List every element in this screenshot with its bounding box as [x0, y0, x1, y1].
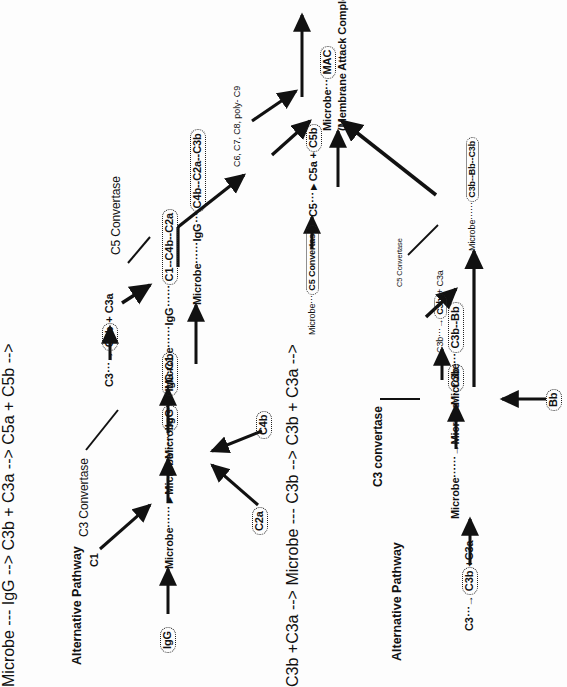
node-c3-to-c3b: C3⋯→C3b+ C3a [102, 293, 118, 387]
chip-igg: IgG [160, 627, 176, 653]
label-c6-c9: C6, C7, C8, poly- C9 [232, 86, 242, 167]
chip-c4b: C4b [256, 411, 272, 439]
label-c3: C3 [103, 373, 115, 387]
node-alt-microbe-c3b-bb-c3b: Microbe⋯⋯C3b--Bb--C3b [466, 137, 479, 251]
label-microbe-pre-3: Microbe [163, 348, 175, 389]
node-c1: C1 [88, 553, 101, 567]
node-bb: Bb [546, 389, 562, 411]
label-alt-microbe-pre-2: Microbe [449, 364, 461, 405]
label-alt-microbe-pre-3: Microbe [467, 220, 477, 251]
node-c2a: C2a [252, 507, 268, 535]
label-alt-c5-convertase: C5 Convertase [396, 238, 405, 287]
node-c4b: C4b [256, 411, 272, 439]
chip-c2a: C2a [252, 507, 268, 535]
chip-c1-c4b-c2a: C1--C4b--C2a [162, 209, 178, 285]
label-microbe-pre-4: Microbe [191, 264, 203, 305]
classical-pathway-block: Alternative Pathway IgG Microbe --- IgG … [0, 0, 284, 687]
label-igg-mid-2: IgG [163, 307, 175, 325]
chip-c3b-bb-c3b: C3b--Bb--C3b [466, 137, 479, 202]
label-microbe-pre-2: Microbe [163, 418, 175, 459]
node-alt-c3-to-c3b: C3⋯→C3b+C3a [462, 540, 478, 631]
chip-c3b-bb: C3b--Bb [448, 302, 464, 352]
label-microbe-pre: Microbe [163, 528, 175, 569]
label-alt-plus-c3a-small: + C3a [435, 270, 445, 294]
node-igg-start: IgG [160, 627, 176, 653]
chip-alt-c3b-2: C3b [434, 294, 447, 319]
chip-alt-c3b: C3b [462, 567, 478, 595]
chip-bb: Bb [546, 389, 562, 411]
label-alt-c3b-small: C3b [435, 337, 445, 353]
label-alt-c3-convertase: C3 convertase [372, 406, 386, 487]
label-alt-c3: C3 [463, 617, 475, 631]
label-microbe-arrow: Microbe [163, 453, 175, 494]
label-c3-convertase: C3 Convertase [78, 458, 92, 537]
node-alt-c3b-to-c3b: C3b⋯→C3b+ C3a [434, 270, 447, 353]
node-alt-microbe-c3b-bb: Microbe⋯C3b--Bb [448, 302, 464, 405]
alternative-connectors [284, 0, 567, 687]
label-igg-mid-3: IgG [191, 223, 203, 241]
chip-c3b: C3b [102, 323, 118, 351]
label-alt-microbe-bold: Microbe [449, 403, 461, 444]
node-microbe-igg-c4bc2ac3b: Microbe⋯⋯IgG⋯C4b--C2a--C3b [190, 129, 206, 305]
alternative-pathway-title: Alternative Pathway [390, 542, 404, 661]
alternative-pathway-block: Alternative Pathway C3b +C3a --> C3⋯→C3b… [284, 0, 567, 687]
label-plus-c3a: + C3a [103, 293, 115, 322]
classical-pathway-title: Alternative Pathway [70, 546, 84, 665]
label-alt-microbe-pre: Microbe [449, 478, 461, 519]
node-microbe-igg-c1c4bc2a: Microbe⋯⋯IgG⋯⋯C1--C4b--C2a [162, 209, 178, 389]
label-alt-plus-c3a: +C3a [463, 540, 475, 566]
figure-canvas: Alternative Pathway IgG Microbe --- IgG … [0, 0, 567, 687]
chip-c4b-c2a-c3b: C4b--C2a--C3b [190, 129, 206, 212]
label-c5-convertase-upper: C5 Convertase [110, 176, 124, 255]
